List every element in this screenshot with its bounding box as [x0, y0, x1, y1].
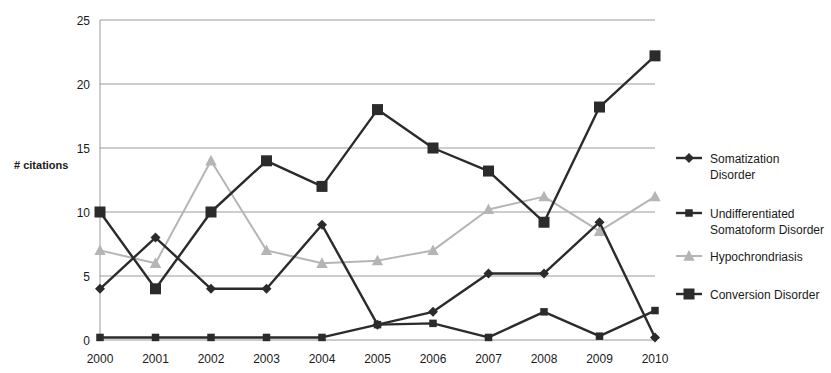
legend-item-1[interactable]: SomatizationDisorder — [676, 152, 779, 183]
legend-item-2[interactable]: UndifferentiatedSomatoform Disorder — [676, 207, 824, 238]
marker-triangle — [205, 155, 216, 166]
marker-triangle — [94, 244, 105, 255]
y-tick-labels: 0510152025 — [77, 14, 91, 348]
marker-square-large — [150, 283, 161, 294]
series-undifferentiated-somatoform-disorder — [96, 307, 659, 341]
y-tick-label: 25 — [77, 14, 91, 28]
marker-square-small — [152, 334, 160, 342]
marker-diamond — [684, 153, 694, 163]
marker-square-large — [684, 289, 695, 300]
marker-square-small — [651, 307, 659, 315]
marker-square-small — [596, 332, 604, 340]
marker-square-small — [96, 334, 104, 342]
marker-triangle — [261, 244, 272, 255]
legend-item-4[interactable]: Conversion Disorder — [676, 288, 819, 302]
series-hypochrondriasis — [94, 155, 660, 268]
y-tick-label: 0 — [83, 334, 90, 348]
marker-square-large — [428, 143, 439, 154]
legend-label: Somatization — [710, 152, 779, 166]
marker-square-small — [429, 320, 437, 328]
legend-label-line2: Disorder — [710, 168, 755, 182]
x-tick-label: 2008 — [531, 352, 558, 366]
x-tick-label: 2004 — [309, 352, 336, 366]
x-tick-label: 2007 — [475, 352, 502, 366]
marker-square-small — [485, 334, 493, 342]
y-tick-label: 10 — [77, 206, 91, 220]
legend-label: Conversion Disorder — [710, 288, 819, 302]
marker-square-small — [540, 308, 548, 316]
marker-square-large — [261, 155, 272, 166]
x-tick-label: 2002 — [198, 352, 225, 366]
marker-square-large — [483, 166, 494, 177]
marker-triangle — [538, 191, 549, 202]
series-line — [100, 56, 655, 289]
marker-square-large — [95, 207, 106, 218]
legend-label-line2: Somatoform Disorder — [710, 223, 824, 237]
marker-square-small — [263, 334, 271, 342]
x-tick-label: 2005 — [364, 352, 391, 366]
legend: SomatizationDisorderUndifferentiatedSoma… — [676, 152, 824, 302]
x-tick-label: 2006 — [420, 352, 447, 366]
marker-triangle — [427, 244, 438, 255]
marker-square-large — [594, 102, 605, 113]
chart-canvas: 0510152025# citations2000200120022003200… — [0, 0, 831, 373]
marker-square-large — [317, 181, 328, 192]
citations-line-chart: 0510152025# citations2000200120022003200… — [0, 0, 831, 373]
y-axis-title: # citations — [14, 159, 68, 171]
marker-square-large — [539, 217, 550, 228]
x-tick-label: 2001 — [142, 352, 169, 366]
marker-square-small — [685, 209, 693, 217]
marker-square-small — [318, 334, 326, 342]
x-tick-labels: 2000200120022003200420052006200720082009… — [87, 352, 669, 366]
legend-label: Undifferentiated — [710, 207, 795, 221]
y-tick-label: 5 — [83, 270, 90, 284]
marker-square-small — [374, 321, 382, 329]
marker-square-large — [650, 50, 661, 61]
marker-triangle — [649, 191, 660, 202]
x-tick-label: 2009 — [586, 352, 613, 366]
legend-label: Hypochrondriasis — [710, 250, 803, 264]
x-tick-label: 2003 — [253, 352, 280, 366]
marker-square-large — [372, 104, 383, 115]
y-tick-label: 15 — [77, 142, 91, 156]
y-tick-label: 20 — [77, 78, 91, 92]
gridlines — [100, 20, 655, 340]
marker-square-large — [206, 207, 217, 218]
marker-diamond — [650, 332, 660, 342]
x-tick-label: 2010 — [642, 352, 669, 366]
x-tick-label: 2000 — [87, 352, 114, 366]
marker-square-small — [207, 334, 215, 342]
legend-item-3[interactable]: Hypochrondriasis — [676, 250, 803, 264]
